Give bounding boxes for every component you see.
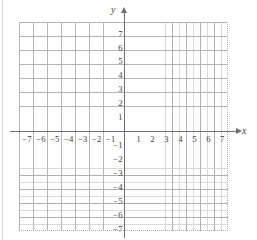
y-axis-arrow-icon — [121, 7, 127, 13]
y-tick-label: 7 — [118, 29, 122, 38]
y-tick-label: −2 — [113, 155, 122, 164]
y-tick-label: 6 — [118, 43, 122, 52]
coordinate-plane-figure: x y −7−6−5−4−3−2−11234567 7654321−1−2−3−… — [0, 0, 257, 240]
y-tick-label: −4 — [113, 183, 122, 192]
x-axis-label: x — [242, 126, 246, 136]
x-tick-label: 3 — [164, 135, 168, 144]
x-tick-label: −5 — [50, 135, 59, 144]
x-tick-label: −3 — [78, 135, 87, 144]
y-tick-label: 5 — [118, 57, 122, 66]
y-axis-line — [124, 12, 125, 238]
y-axis-label: y — [111, 5, 115, 15]
y-tick-label: 4 — [118, 71, 122, 80]
x-tick-label: 4 — [178, 135, 182, 144]
y-tick-label: 2 — [118, 99, 122, 108]
y-tick-label: −6 — [113, 211, 122, 220]
x-tick-label: 1 — [136, 135, 140, 144]
y-tick-label: −1 — [113, 141, 122, 150]
x-tick-label: 5 — [192, 135, 196, 144]
x-tick-label: 2 — [150, 135, 154, 144]
x-tick-label: −4 — [64, 135, 73, 144]
x-tick-label: −2 — [92, 135, 101, 144]
x-tick-label: −6 — [36, 135, 45, 144]
y-tick-label: 1 — [118, 113, 122, 122]
y-tick-label: −3 — [113, 169, 122, 178]
y-tick-label: −5 — [113, 197, 122, 206]
x-tick-label: 7 — [220, 135, 224, 144]
y-tick-label: −7 — [113, 225, 122, 234]
x-tick-label: −7 — [22, 135, 31, 144]
y-tick-label: 3 — [118, 85, 122, 94]
x-tick-label: 6 — [206, 135, 210, 144]
